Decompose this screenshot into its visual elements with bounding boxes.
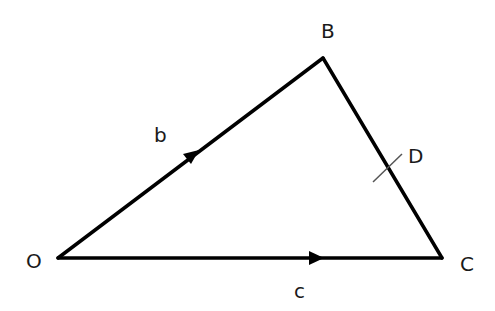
point-label-D: D xyxy=(408,144,423,168)
vertex-label-C: C xyxy=(460,252,474,276)
edge-BC xyxy=(323,58,442,258)
edge-label-c: c xyxy=(294,279,305,303)
triangle-diagram: O B C b c D xyxy=(0,0,495,311)
tick-mark-D xyxy=(373,154,402,182)
arrow-head-OC xyxy=(309,251,324,265)
vertex-label-B: B xyxy=(321,19,335,43)
edge-label-b: b xyxy=(154,123,167,147)
vertex-label-O: O xyxy=(26,249,42,273)
